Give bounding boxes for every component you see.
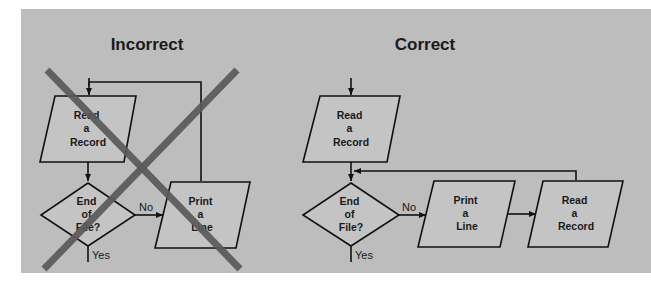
- correct-flowchart: Correct Read a Record End of File? No Ye…: [303, 35, 623, 262]
- correct-yes-label: Yes: [355, 249, 373, 261]
- incorrect-title: Incorrect: [111, 35, 184, 54]
- incorrect-yes-label: Yes: [92, 249, 110, 261]
- flowchart-comparison: Incorrect Read a Record End of File? No …: [0, 0, 651, 291]
- incorrect-no-label: No: [139, 201, 153, 213]
- correct-title: Correct: [395, 35, 456, 54]
- correct-no-label: No: [402, 201, 416, 213]
- correct-loop-back-arrow: [354, 171, 576, 180]
- incorrect-flowchart: Incorrect Read a Record End of File? No …: [40, 35, 250, 269]
